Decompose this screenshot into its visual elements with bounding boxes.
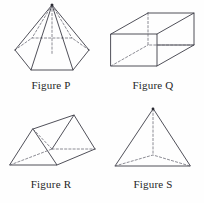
pyramid-lateral-edge-hidden-right xyxy=(52,5,72,38)
pyramid-lateral-edge-left xyxy=(15,5,52,50)
prism-top-ridge-edge xyxy=(33,115,74,129)
box-depth-edge-bottom-right xyxy=(157,45,194,66)
figure-s-caption: Figure S xyxy=(102,177,204,191)
figure-r-caption: Figure R xyxy=(0,177,102,191)
pyramid-lateral-edge-front-right xyxy=(52,5,73,70)
figure-panel-q: Figure Q xyxy=(102,0,204,101)
box-back-face-visible xyxy=(148,13,194,45)
figure-q-caption: Figure Q xyxy=(102,78,204,92)
figure-panel-p: Figure P xyxy=(0,0,102,101)
pyramid-lateral-edge-right xyxy=(52,5,89,50)
tetrahedron-apex-point xyxy=(152,108,155,111)
pyramid-lateral-edge-front-left xyxy=(31,5,52,70)
figure-p-caption: Figure P xyxy=(0,78,102,92)
figure-r-drawing xyxy=(0,101,102,177)
box-depth-edge-top-left xyxy=(111,13,148,34)
figure-s-drawing xyxy=(102,101,204,177)
tetrahedron-base-hidden-edges xyxy=(115,155,190,166)
figure-sheet: Figure P Figure Q xyxy=(0,0,204,203)
prism-near-triangle xyxy=(10,129,57,165)
pyramid-lateral-edge-hidden-left xyxy=(32,5,52,38)
figure-panel-r: Figure R xyxy=(0,101,102,202)
figure-q-drawing xyxy=(102,0,204,78)
box-back-face-hidden xyxy=(148,13,194,45)
figure-panel-s: Figure S xyxy=(102,101,204,202)
prism-hidden-diagonal xyxy=(33,129,52,149)
pyramid-apex-point xyxy=(51,4,54,7)
prism-lower-right-edge xyxy=(57,149,95,165)
tetrahedron-outline xyxy=(115,109,190,166)
prism-hidden-length-edge xyxy=(10,149,52,165)
figure-p-drawing xyxy=(0,0,102,78)
box-depth-edge-top-right xyxy=(157,13,194,34)
box-depth-edge-hidden xyxy=(111,45,148,66)
box-front-face xyxy=(111,34,157,66)
